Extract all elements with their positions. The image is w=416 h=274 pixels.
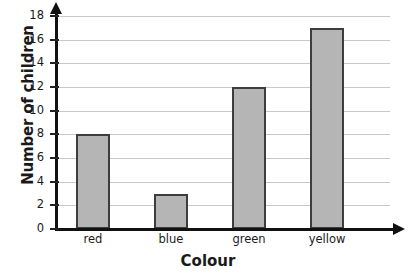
x-category-label-red: red [53, 233, 133, 246]
x-category-label-blue: blue [131, 233, 211, 246]
y-tick-label: 10 [14, 105, 44, 117]
y-tick-mark [50, 157, 59, 159]
y-tick-mark [50, 39, 59, 41]
y-tick-mark [50, 228, 59, 230]
x-axis-title: Colour [0, 252, 416, 270]
x-category-label-green: green [209, 233, 289, 246]
y-tick-label: 0 [14, 223, 44, 235]
y-tick-label: 16 [14, 34, 44, 46]
y-tick-mark [50, 204, 59, 206]
bar-yellow [310, 28, 344, 229]
y-tick-label: 18 [14, 10, 44, 22]
y-axis-arrow-icon [50, 2, 62, 14]
bar-red [76, 134, 110, 229]
y-tick-label: 6 [14, 152, 44, 164]
y-tick-mark [50, 133, 59, 135]
y-tick-label: 2 [14, 199, 44, 211]
y-tick-label: 14 [14, 57, 44, 69]
y-tick-mark [50, 181, 59, 183]
x-axis-arrow-icon [393, 223, 405, 235]
y-tick-mark [50, 86, 59, 88]
y-tick-label: 4 [14, 176, 44, 188]
plot-area [58, 12, 390, 229]
y-tick-mark [50, 15, 59, 17]
x-category-label-yellow: yellow [287, 233, 367, 246]
y-tick-label: 8 [14, 128, 44, 140]
y-tick-mark [50, 110, 59, 112]
bar-green [232, 87, 266, 229]
y-axis-line [55, 12, 58, 230]
bar-chart-figure: Number of children 024681012141618 redbl… [0, 0, 416, 274]
gridline [58, 16, 390, 17]
y-tick-label: 12 [14, 81, 44, 93]
bar-blue [154, 194, 188, 230]
y-tick-mark [50, 62, 59, 64]
x-axis-line [55, 228, 396, 231]
